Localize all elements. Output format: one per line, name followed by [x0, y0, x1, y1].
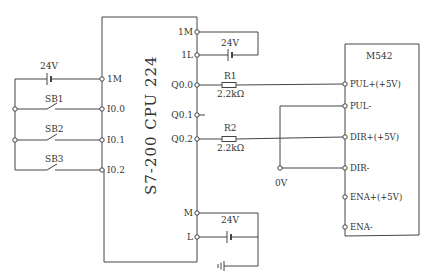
driver-terminal-label: DIR+(+5V)	[350, 132, 399, 142]
plc-power-supply: 24V	[199, 213, 258, 271]
terminal-label: Q0.2	[171, 134, 193, 144]
driver-terminal-label: DIR-	[350, 163, 370, 173]
terminal-label: L	[187, 232, 193, 242]
terminal-i0-2	[100, 168, 104, 172]
input-circuit: 24V SB1 SB2 SB3	[13, 61, 100, 170]
switch-label: SB1	[45, 94, 64, 104]
driver-terminal-label: PUL-	[350, 101, 371, 111]
resistor-r2	[222, 137, 236, 142]
resistor-value: 2.2kΩ	[217, 143, 244, 153]
terminal-label: 1M	[178, 27, 193, 37]
driver-terminal-label: ENA+(+5V)	[350, 192, 402, 202]
plc-power-label: 24V	[221, 215, 239, 225]
switch-sb3	[47, 164, 57, 170]
terminal-label: I0.1	[107, 135, 125, 145]
terminal-label: I0.0	[107, 104, 125, 114]
resistor-name: R1	[224, 71, 237, 81]
switch-label: SB3	[45, 154, 64, 164]
m542-driver-box: M542 PUL+(+5V) PUL- DIR+(+5V) DIR- ENA+(…	[343, 44, 419, 236]
terminal-i0-1	[100, 138, 104, 142]
resistor-r1	[222, 83, 236, 88]
driver-title: M542	[366, 51, 392, 61]
output-supply-label: 24V	[221, 38, 239, 48]
terminal-1m-in	[100, 77, 104, 81]
terminal-label: M	[184, 208, 193, 218]
plc-title: S7-200 CPU 224	[142, 55, 160, 195]
common-node-label: 0V	[275, 178, 288, 188]
terminal-label: Q0.1	[171, 110, 193, 120]
terminal-label: 1L	[181, 50, 193, 60]
switch-label: SB2	[45, 124, 64, 134]
input-supply-label: 24V	[40, 61, 58, 71]
common-0v-node: 0V	[275, 106, 343, 188]
plc-right-terminals: 1M 1L Q0.0 Q0.1 Q0.2 M L	[171, 27, 205, 242]
output-supply: 24V	[199, 32, 258, 61]
terminal-label: 1M	[107, 74, 122, 84]
terminal-label: Q0.0	[171, 80, 193, 90]
resistor-value: 2.2kΩ	[217, 89, 244, 99]
resistor-r1-branch: R1 2.2kΩ	[199, 71, 343, 99]
driver-terminal-label: PUL+(+5V)	[350, 79, 401, 89]
driver-terminal-label: ENA-	[350, 222, 373, 232]
plc-left-terminals: 1M I0.0 I0.1 I0.2	[100, 74, 125, 175]
ground-icon	[218, 261, 224, 271]
terminal-label: I0.2	[107, 165, 125, 175]
wiring-diagram: S7-200 CPU 224 1M I0.0 I0.1 I0.2 24V SB1…	[0, 0, 431, 280]
resistor-r2-branch: R2 2.2kΩ	[199, 123, 343, 153]
resistor-name: R2	[224, 123, 237, 133]
terminal-i0-0	[100, 107, 104, 111]
switch-sb2	[47, 134, 57, 140]
